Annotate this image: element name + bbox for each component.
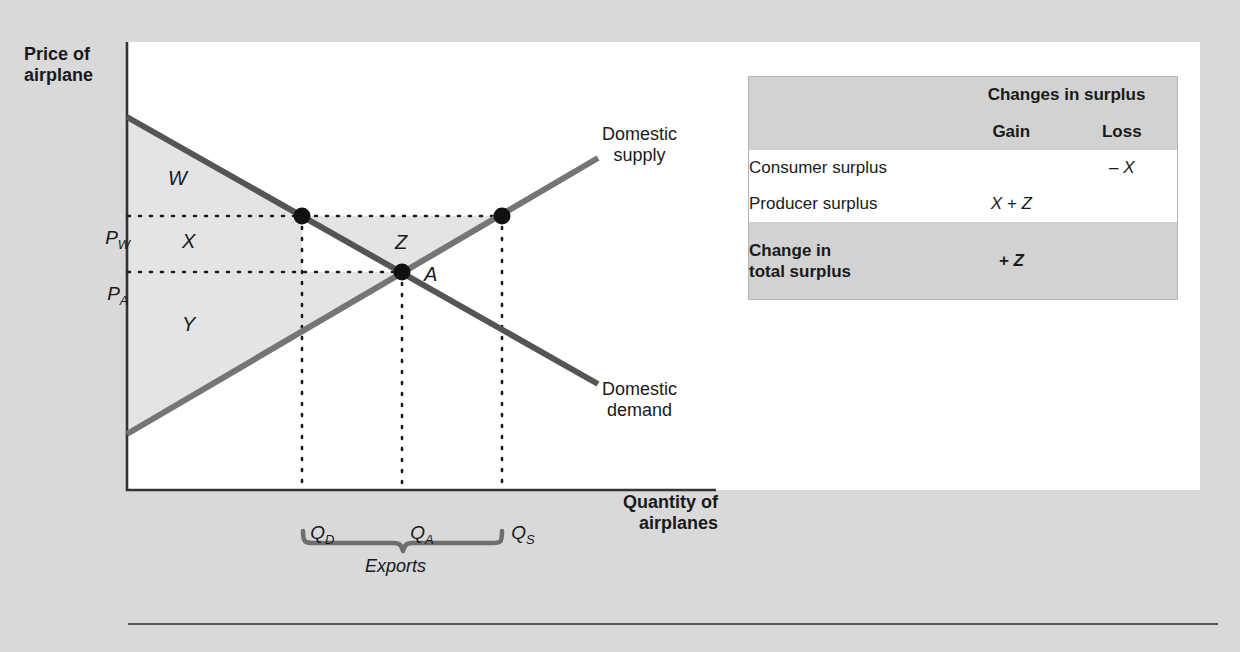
marker-equilibrium-A [394,264,411,281]
x-axis-title: Quantity of airplanes [600,492,718,534]
quantity-tick-Qd-sub: D [325,532,334,547]
table-header-gain: Gain [956,114,1066,150]
table-total-row: Change in total surplus + Z [749,222,1178,299]
quantity-tick-Qa-sub: A [425,532,434,547]
table-header-row: Gain Loss [749,114,1178,150]
quantity-tick-Qs-sub: S [526,532,535,547]
equilibrium-point-label: A [424,263,437,286]
table-row: Consumer surplus – X [749,150,1178,186]
domestic-supply-label: Domestic supply [602,124,677,166]
marker-Qd-Pw [294,208,311,225]
row-label-producer-surplus: Producer surplus [749,186,957,222]
row-label-consumer-surplus: Consumer surplus [749,150,957,186]
domestic-demand-label: Domestic demand [602,379,677,421]
region-label-W: W [168,167,187,190]
region-label-Z: Z [395,231,407,254]
price-tick-Pa-base: P [107,283,120,304]
table-header-loss: Loss [1067,114,1178,150]
price-tick-Pa: PA [86,261,128,330]
bottom-divider [128,623,1218,625]
quantity-tick-Qa-base: Q [410,522,425,543]
cell-consumer-surplus-loss: – X [1067,150,1178,186]
price-tick-Pw-base: P [105,227,118,248]
quantity-tick-Qd: QD [289,500,334,569]
quantity-tick-Qd-base: Q [310,522,325,543]
cell-producer-surplus-gain: X + Z [956,186,1066,222]
marker-Qs-Pw [494,208,511,225]
region-X-shading [127,216,302,272]
table-header-group-row: Changes in surplus [749,77,1178,114]
quantity-tick-Qs-base: Q [511,522,526,543]
quantity-tick-Qs: QS [490,500,535,569]
table-row: Producer surplus X + Z [749,186,1178,222]
exports-bracket-label: Exports [365,556,426,577]
cell-producer-surplus-loss [1067,186,1178,222]
region-label-X: X [182,230,195,253]
y-axis-title: Price of airplane [24,44,93,86]
price-tick-Pa-sub: A [120,293,129,308]
cell-total-surplus-loss [1067,222,1178,299]
table-corner-cell [749,77,957,114]
changes-in-surplus-table: Changes in surplus Gain Loss Consumer su… [748,76,1178,300]
cell-total-surplus-gain: + Z [956,222,1066,299]
table-header-blank [749,114,957,150]
cell-consumer-surplus-gain [956,150,1066,186]
table-group-header: Changes in surplus [956,77,1177,114]
row-label-total-surplus: Change in total surplus [749,222,957,299]
region-label-Y: Y [182,313,195,336]
price-tick-Pw-sub: W [118,237,130,252]
